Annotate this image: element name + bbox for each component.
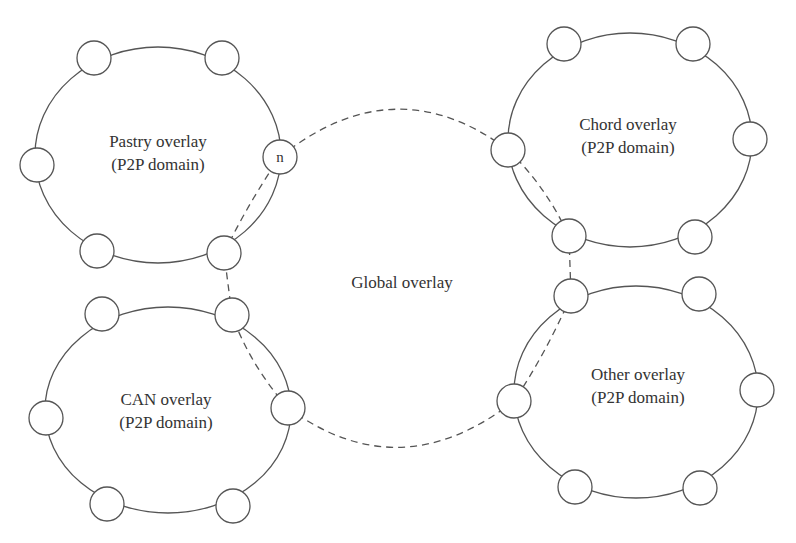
other-label-line1: Other overlay xyxy=(591,365,685,384)
p2p-overlay-diagram: n Pastry overlay (P2P domain) Chord over… xyxy=(0,0,796,543)
can-overlay: CAN overlay (P2P domain) xyxy=(29,297,305,523)
pastry-node xyxy=(20,148,54,182)
pastry-node xyxy=(207,236,241,270)
pastry-node xyxy=(77,41,111,75)
other-node xyxy=(682,277,716,311)
chord-node xyxy=(552,219,586,253)
node-n-label: n xyxy=(276,149,284,165)
can-node xyxy=(271,391,305,425)
other-node xyxy=(740,373,774,407)
chord-overlay: Chord overlay (P2P domain) xyxy=(491,27,767,254)
other-overlay: Other overlay (P2P domain) xyxy=(497,277,774,505)
other-node xyxy=(683,471,717,505)
other-node xyxy=(497,384,531,418)
pastry-node xyxy=(80,234,114,268)
chord-label-line2: (P2P domain) xyxy=(581,138,674,157)
pastry-label-line2: (P2P domain) xyxy=(111,155,204,174)
can-node xyxy=(216,489,250,523)
pastry-overlay: n Pastry overlay (P2P domain) xyxy=(20,41,297,270)
other-label-line2: (P2P domain) xyxy=(591,388,684,407)
chord-node xyxy=(678,220,712,254)
chord-node xyxy=(547,27,581,61)
chord-node xyxy=(491,133,525,167)
pastry-node xyxy=(205,41,239,75)
can-label-line1: CAN overlay xyxy=(120,390,212,409)
chord-node xyxy=(676,27,710,61)
other-node xyxy=(554,279,588,313)
can-node xyxy=(90,487,124,521)
chord-node xyxy=(733,122,767,156)
chord-label-line1: Chord overlay xyxy=(579,115,677,134)
can-node xyxy=(85,297,119,331)
can-node xyxy=(215,298,249,332)
global-overlay-label: Global overlay xyxy=(351,273,453,292)
other-node xyxy=(558,470,592,504)
can-label-line2: (P2P domain) xyxy=(119,413,212,432)
can-node xyxy=(29,401,63,435)
pastry-label-line1: Pastry overlay xyxy=(109,132,207,151)
